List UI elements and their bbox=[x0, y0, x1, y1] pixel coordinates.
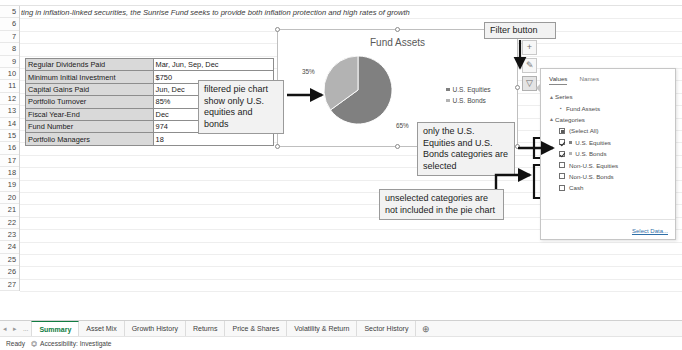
sheet-tab-asset-mix[interactable]: Asset Mix bbox=[79, 321, 124, 336]
filter-tab-values[interactable]: Values bbox=[549, 75, 567, 85]
row-header[interactable]: 14 bbox=[0, 118, 19, 130]
row-header[interactable]: 18 bbox=[0, 167, 19, 179]
sheet-tabs[interactable]: SummaryAsset MixGrowth HistoryReturnsPri… bbox=[31, 321, 416, 336]
legend-item[interactable]: U.S. Bonds bbox=[446, 95, 491, 106]
row-header[interactable]: 12 bbox=[0, 93, 19, 105]
chart-elements-icon: + bbox=[523, 41, 536, 54]
filter-pane-tree[interactable]: ▴Series▪Fund Assets▴Categories(Select Al… bbox=[547, 91, 669, 194]
row-header[interactable]: 25 bbox=[0, 254, 19, 266]
table-row[interactable]: Regular Dividends PaidMar, Jun, Sep, Dec bbox=[26, 59, 274, 71]
row-header[interactable]: 13 bbox=[0, 105, 19, 117]
row-header[interactable]: 6 bbox=[0, 18, 19, 30]
resize-handle-top-left[interactable] bbox=[275, 27, 280, 32]
row-header[interactable]: 9 bbox=[0, 56, 19, 68]
annotation-unselected-note: unselected categories are not included i… bbox=[379, 189, 504, 220]
resize-handle-bottom-left[interactable] bbox=[275, 144, 280, 149]
fact-label-cell[interactable]: Portfolio Turnover bbox=[26, 96, 154, 108]
fund-description-cell[interactable]: ting in inflation-linked securities, the… bbox=[21, 7, 621, 19]
row-header[interactable]: 15 bbox=[0, 130, 19, 142]
filter-group-label: Categories bbox=[555, 116, 585, 123]
legend-item[interactable]: U.S. Equities bbox=[446, 84, 491, 95]
resize-handle-middle-right[interactable] bbox=[515, 85, 520, 90]
filter-tab-names[interactable]: Names bbox=[579, 75, 599, 85]
checkbox-unchecked[interactable] bbox=[559, 162, 565, 168]
row-header[interactable]: 7 bbox=[0, 31, 19, 43]
row-header-column[interactable]: 5678910111213141516171819202122232425262… bbox=[0, 6, 20, 291]
chart-styles-button[interactable]: ✎ bbox=[522, 58, 537, 73]
row-header[interactable]: 23 bbox=[0, 229, 19, 241]
row-header[interactable]: 8 bbox=[0, 43, 19, 55]
filter-item[interactable]: Cash bbox=[547, 182, 669, 193]
checkbox-partial[interactable] bbox=[559, 128, 565, 134]
chart-filters-button[interactable]: ▽ bbox=[522, 76, 537, 91]
accessibility-label: Accessibility: Investigate bbox=[40, 340, 111, 347]
filter-item[interactable]: U.S. Equities bbox=[547, 137, 669, 148]
resize-handle-top-center[interactable] bbox=[395, 27, 400, 32]
fact-label-cell[interactable]: Regular Dividends Paid bbox=[26, 59, 154, 71]
resize-handle-bottom-right[interactable] bbox=[515, 144, 520, 149]
pie-plot-area[interactable] bbox=[322, 54, 394, 126]
sheet-nav-more-icon[interactable]: ... bbox=[23, 325, 28, 332]
fact-value-cell[interactable]: Mar, Jun, Sep, Dec bbox=[153, 59, 273, 71]
row-header[interactable]: 17 bbox=[0, 155, 19, 167]
row-header[interactable]: 11 bbox=[0, 80, 19, 92]
sheet-nav-next-icon[interactable]: ▸ bbox=[13, 325, 17, 333]
row-header[interactable]: 19 bbox=[0, 179, 19, 191]
filter-item-label: Cash bbox=[569, 184, 583, 191]
fact-label-cell[interactable]: Capital Gains Paid bbox=[26, 83, 154, 95]
pane-callout-tail bbox=[536, 83, 541, 93]
accessibility-status[interactable]: ⏣ Accessibility: Investigate bbox=[31, 340, 111, 348]
sheet-tab-returns[interactable]: Returns bbox=[186, 321, 226, 336]
chart-filters-pane[interactable]: ValuesNames ▴Series▪Fund Assets▴Categori… bbox=[540, 68, 676, 240]
chart-elements-button[interactable]: + bbox=[522, 40, 537, 55]
sheet-nav-arrows[interactable]: ◂ ▸ ... bbox=[0, 321, 31, 336]
row-header[interactable]: 21 bbox=[0, 204, 19, 216]
sheet-tab-volatility-return[interactable]: Volatility & Return bbox=[287, 321, 357, 336]
fact-label-cell[interactable]: Fiscal Year-End bbox=[26, 108, 154, 120]
status-state-label: Ready bbox=[6, 340, 25, 347]
fact-label-cell[interactable]: Fund Number bbox=[26, 120, 154, 132]
add-sheet-icon[interactable]: ⊕ bbox=[416, 321, 436, 336]
select-data-link[interactable]: Select Data... bbox=[632, 228, 668, 234]
filter-item-label: Non-U.S. Equities bbox=[569, 162, 618, 169]
row-header[interactable]: 26 bbox=[0, 266, 19, 278]
chart-legend[interactable]: U.S. EquitiesU.S. Bonds bbox=[446, 84, 491, 106]
row-header[interactable]: 27 bbox=[0, 279, 19, 291]
fact-value-cell[interactable]: 18 bbox=[153, 133, 273, 145]
row-header[interactable]: 16 bbox=[0, 142, 19, 154]
filter-item[interactable]: U.S. Bonds bbox=[547, 148, 669, 159]
filter-pane-tabs[interactable]: ValuesNames bbox=[549, 75, 611, 85]
row-header[interactable]: 24 bbox=[0, 241, 19, 253]
chart-side-buttons[interactable]: +✎▽ bbox=[522, 40, 537, 94]
sheet-tab-sector-history[interactable]: Sector History bbox=[357, 321, 416, 336]
checkbox-unchecked[interactable] bbox=[559, 173, 565, 179]
filter-item[interactable]: ▪Fund Assets bbox=[547, 102, 669, 113]
sheet-tab-summary[interactable]: Summary bbox=[31, 321, 79, 336]
filter-item[interactable]: (Select All) bbox=[547, 125, 669, 136]
row-header[interactable]: 5 bbox=[0, 6, 19, 18]
sheet-nav-prev-icon[interactable]: ◂ bbox=[3, 325, 7, 333]
filter-group-categories[interactable]: ▴Categories bbox=[547, 114, 669, 125]
legend-swatch-icon bbox=[446, 88, 450, 92]
sheet-tab-bar[interactable]: ◂ ▸ ... SummaryAsset MixGrowth HistoryRe… bbox=[0, 320, 682, 336]
resize-handle-bottom-center[interactable] bbox=[395, 144, 400, 149]
chevron-down-icon[interactable]: ▴ bbox=[547, 116, 555, 122]
fact-label-cell[interactable]: Portfolio Managers bbox=[26, 133, 154, 145]
sheet-tab-price-shares[interactable]: Price & Shares bbox=[225, 321, 287, 336]
row-header[interactable]: 22 bbox=[0, 217, 19, 229]
table-row[interactable]: Portfolio Managers18 bbox=[26, 133, 274, 145]
chart-title[interactable]: Fund Assets bbox=[278, 37, 517, 48]
filter-group-series[interactable]: ▴Series bbox=[547, 91, 669, 102]
fact-label-cell[interactable]: Minimum Initial Investment bbox=[26, 71, 154, 83]
checkbox-checked[interactable] bbox=[559, 139, 565, 145]
sheet-tab-growth-history[interactable]: Growth History bbox=[125, 321, 186, 336]
gridline bbox=[20, 291, 682, 292]
checkbox-unchecked[interactable] bbox=[559, 185, 565, 191]
row-header[interactable]: 10 bbox=[0, 68, 19, 80]
row-header[interactable]: 20 bbox=[0, 192, 19, 204]
status-bar: Ready ⏣ Accessibility: Investigate bbox=[0, 336, 682, 350]
filter-item[interactable]: Non-U.S. Equities bbox=[547, 159, 669, 170]
chevron-down-icon[interactable]: ▴ bbox=[547, 94, 555, 100]
checkbox-checked[interactable] bbox=[559, 151, 565, 157]
filter-item[interactable]: Non-U.S. Bonds bbox=[547, 171, 669, 182]
